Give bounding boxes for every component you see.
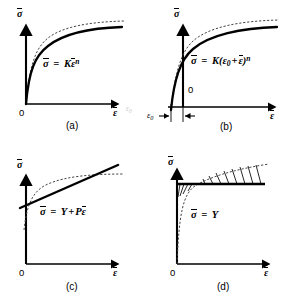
prestrain-dimension-label: ε0 <box>147 111 153 121</box>
equation-coefficient: K <box>212 55 219 66</box>
y-axis-label: σ <box>17 160 22 170</box>
prestrain-ghost-label: ε0 <box>126 105 132 114</box>
equation-label: σ = Y <box>191 210 218 221</box>
equation-variable: ε <box>82 207 86 218</box>
equation-sigma: σ <box>43 59 49 70</box>
equation-exponent: n <box>246 54 250 63</box>
x-axis-label-text: ε <box>113 268 117 278</box>
x-axis-label: ε <box>113 268 117 278</box>
prestrain-dimension-sub: 0 <box>150 115 153 121</box>
x-axis-label: ε <box>113 108 117 118</box>
x-axis-label-text: ε <box>270 111 274 121</box>
equation-yield: Y <box>61 206 67 217</box>
equation-equals: = <box>53 58 59 69</box>
y-axis-label-text: σ <box>174 9 179 19</box>
equation-equals: = <box>50 206 56 217</box>
equation-variable: ε <box>71 59 75 70</box>
panel-caption: (c) <box>66 282 78 292</box>
hatch-region <box>178 165 261 197</box>
y-axis-label: σ <box>17 9 22 19</box>
equation-equals: = <box>201 209 207 220</box>
equation-plus: + <box>68 206 74 217</box>
panel-caption: (b) <box>220 122 232 132</box>
y-axis-label: σ <box>174 9 179 19</box>
equation-coefficient: K <box>64 58 71 69</box>
panel-a: σ ε 0 σ = Kεn (a) <box>0 0 151 152</box>
y-axis-label: σ <box>168 157 173 167</box>
equation-variable: ε <box>239 56 243 67</box>
experimental-curve <box>24 174 124 230</box>
equation-label: σ = Y+Pε <box>40 207 86 218</box>
origin-label: 0 <box>188 85 193 95</box>
y-axis-label-text: σ <box>17 9 22 19</box>
equation-sigma: σ <box>191 210 197 221</box>
panel-caption: (a) <box>66 121 78 131</box>
x-axis-label: ε <box>264 268 268 278</box>
equation-prestrain-sub: 0 <box>227 59 231 68</box>
equation-label: σ = Kεn <box>43 58 79 70</box>
equation-label: σ = K(ε0+ε)n <box>191 55 251 68</box>
panel-b: σ ε 0 σ = K(ε0+ε)n ε0 ε0 (b) <box>151 0 302 152</box>
x-axis-label: ε <box>270 111 274 121</box>
origin-label: 0 <box>19 108 24 118</box>
panel-c: σ ε 0 σ = Y+Pε (c) <box>0 152 151 304</box>
model-curve <box>171 27 277 110</box>
prestrain-ghost-sub: 0 <box>129 108 132 114</box>
origin-label: 0 <box>19 268 24 278</box>
panel-d: σ ε 0 σ = Y (d) <box>151 152 302 304</box>
panel-caption: (d) <box>217 282 229 292</box>
equation-yield: Y <box>212 209 218 220</box>
x-axis-label-text: ε <box>264 268 268 278</box>
y-axis-label-text: σ <box>168 157 173 167</box>
y-axis-label-text: σ <box>17 160 22 170</box>
equation-exponent: n <box>75 57 79 66</box>
origin-label: 0 <box>170 268 175 278</box>
equation-equals: = <box>201 55 207 66</box>
model-line <box>20 165 118 208</box>
equation-plus: + <box>232 55 238 66</box>
figure-root: σ ε 0 σ = Kεn (a) <box>0 0 302 304</box>
equation-sigma: σ <box>40 207 46 218</box>
equation-sigma: σ <box>191 56 197 67</box>
x-axis-label-text: ε <box>113 108 117 118</box>
